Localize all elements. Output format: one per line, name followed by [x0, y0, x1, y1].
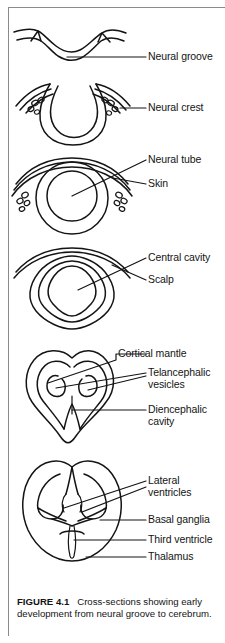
label-thalamus: Thalamus — [148, 551, 193, 563]
label-lateral-ventricles-line2: ventricles — [148, 487, 191, 499]
label-third-ventricle: Third ventricle — [148, 534, 212, 546]
leader-neural-tube — [72, 160, 146, 196]
label-basal-ganglia: Basal ganglia — [148, 514, 210, 526]
label-diencephalic-cavity-line2: cavity — [148, 416, 174, 428]
label-telencephalic-vesicles-line2: vesicles — [148, 379, 185, 391]
label-skin: Skin — [148, 178, 168, 190]
figure-frame: Neural groove Neural crest Neural tube S… — [0, 0, 225, 643]
figure-artwork — [0, 0, 225, 590]
label-neural-groove: Neural groove — [148, 51, 213, 63]
figure-caption-number: FIGURE 4.1 — [17, 596, 69, 607]
label-central-cavity: Central cavity — [148, 252, 210, 264]
panel-neural-tube — [12, 158, 146, 234]
figure-caption: FIGURE 4.1 Cross-sections showing early … — [17, 596, 213, 621]
panel-telencephalic — [26, 351, 146, 443]
panel-neural-groove — [14, 29, 146, 60]
label-lateral-ventricles-line1: Lateral — [148, 475, 179, 487]
cross-section-drawings — [0, 0, 225, 590]
label-neural-tube: Neural tube — [148, 154, 201, 166]
label-cortical-mantle: Cortical mantle — [118, 348, 187, 360]
label-diencephalic-cavity-line1: Diencephalic — [148, 404, 207, 416]
panel-cerebrum — [23, 461, 146, 561]
label-telencephalic-vesicles-line1: Telancephalic — [148, 367, 210, 379]
label-scalp: Scalp — [148, 274, 174, 286]
panel-neural-crest — [16, 84, 146, 145]
panel-central-cavity — [14, 248, 146, 329]
label-neural-crest: Neural crest — [148, 102, 203, 114]
